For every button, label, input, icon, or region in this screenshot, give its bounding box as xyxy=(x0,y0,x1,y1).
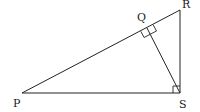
segment-pr xyxy=(22,10,180,93)
right-angle-mark-q-right xyxy=(150,25,156,34)
label-r: R xyxy=(182,0,191,11)
label-p: P xyxy=(13,97,21,110)
segment-qs xyxy=(147,28,180,93)
triangle-diagram: P S R Q xyxy=(0,0,200,112)
label-q: Q xyxy=(137,11,146,24)
label-s: S xyxy=(179,98,187,111)
